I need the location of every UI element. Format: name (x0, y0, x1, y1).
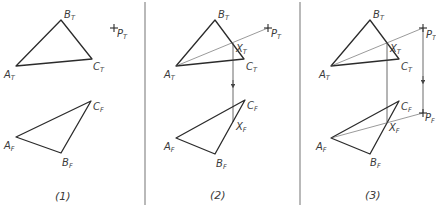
label-x-front: XF (235, 121, 247, 134)
label-b-top: BT (218, 9, 230, 22)
label-b-front: BF (216, 158, 227, 171)
label-b-front: BF (62, 157, 73, 170)
top-view-triangle (176, 20, 244, 66)
label-x-front: XF (388, 122, 400, 135)
label-a-front: AF (3, 140, 15, 153)
top-view-triangle (16, 20, 92, 66)
label-c-front: CF (247, 100, 258, 113)
label-c-top: CT (246, 61, 258, 74)
label-a-top: AT (3, 69, 16, 82)
label-p-top: PT (426, 29, 436, 42)
line-a-to-p-top (176, 28, 268, 66)
descriptive-geometry-figure: AT BT CT PT AF BF CF (1) AT BT CT PT XT … (0, 0, 436, 210)
label-a-top: AT (163, 69, 176, 82)
label-c-front: CF (93, 101, 104, 114)
label-a-front: AF (315, 141, 327, 154)
front-view-triangle (16, 101, 91, 153)
label-p-front: PF (425, 112, 435, 125)
label-c-top: CT (93, 61, 105, 74)
line-a-to-p-top (331, 28, 423, 66)
panel-caption: (2) (210, 189, 226, 202)
label-p-top: PT (117, 28, 128, 41)
label-c-front: CF (401, 101, 412, 114)
top-view-triangle (331, 20, 399, 66)
label-x-top: XT (235, 43, 248, 56)
panel-1: AT BT CT PT AF BF CF (1) (3, 9, 128, 203)
label-b-front: BF (370, 157, 381, 170)
label-b-top: BT (373, 9, 385, 22)
panel-caption: (3) (365, 189, 381, 202)
label-p-top: PT (271, 28, 282, 41)
label-b-top: BT (64, 9, 76, 22)
panel-3: AT BT CT PT XT AF BF CF XF PF (3) (315, 9, 436, 202)
panel-caption: (1) (55, 190, 71, 203)
label-a-top: AT (318, 69, 331, 82)
label-a-front: AF (163, 141, 175, 154)
line-a-to-p-front (331, 113, 423, 138)
front-view-triangle (176, 100, 245, 154)
label-c-top: CT (401, 61, 413, 74)
panel-2: AT BT CT PT XT AF BF CF XF (2) (163, 9, 282, 202)
